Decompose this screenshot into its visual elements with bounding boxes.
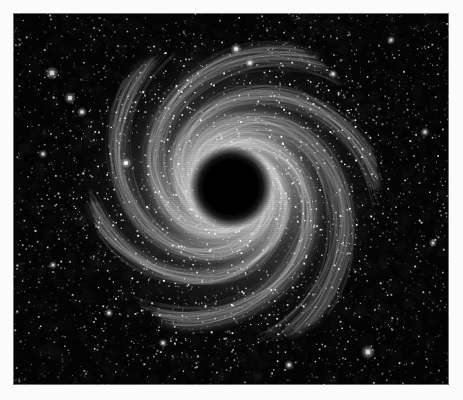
astronomical-plate-figure: Spiral galaxy photographic plate — [0, 0, 463, 400]
galaxy-plate-canvas — [13, 13, 449, 385]
plate-image-frame — [13, 13, 449, 385]
